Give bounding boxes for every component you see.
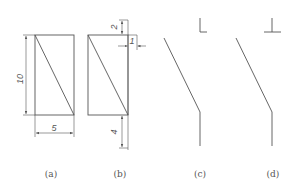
dimension-label-width: 5 — [51, 123, 57, 133]
diagonal-a — [35, 35, 74, 115]
caption-a: (a) — [45, 169, 57, 179]
bent-line-c — [164, 38, 200, 146]
dimension-label-side-offset: 1 — [129, 36, 134, 46]
diagonal-b — [88, 35, 128, 115]
dimension-label-bottom-extension: 4 — [109, 129, 119, 134]
figure-a — [23, 35, 74, 137]
caption-b: (b) — [114, 169, 127, 179]
dimension-label-top-offset: 2 — [109, 24, 119, 30]
bent-line-d — [236, 38, 272, 146]
corner-bracket-icon — [200, 18, 207, 32]
dimension-label-height: 10 — [15, 74, 25, 84]
figure-d — [236, 18, 281, 146]
caption-d: (d) — [267, 169, 280, 179]
caption-c: (c) — [194, 169, 206, 179]
diagram-canvas: 10 5 2 1 4 (a) (b) (c) (d) — [0, 0, 299, 190]
figure-c — [164, 18, 207, 146]
